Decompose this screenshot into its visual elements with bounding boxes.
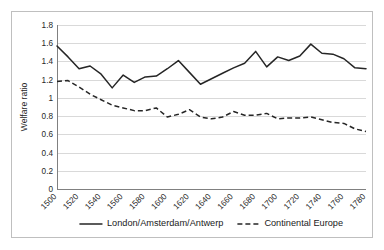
x-tick-label: 1620 <box>172 192 192 212</box>
plot-wrapper: 00.20.40.60.811.21.41.61.8 1500152015401… <box>12 12 372 237</box>
x-tick-label: 1780 <box>348 192 368 212</box>
x-tick-label: 1540 <box>83 192 103 212</box>
chart-legend: London/Amsterdam/AntwerpContinental Euro… <box>80 218 343 228</box>
y-tick-label: 0.2 <box>42 167 54 176</box>
axis-lines <box>57 25 366 190</box>
x-tick-label: 1700 <box>260 192 280 212</box>
x-tick-label: 1740 <box>304 192 324 212</box>
y-tick-label: 1.4 <box>42 57 54 66</box>
gridlines <box>57 26 366 190</box>
x-tick-label: 1760 <box>326 192 346 212</box>
x-tick-label: 1660 <box>216 192 236 212</box>
x-tick-label: 1500 <box>39 192 59 212</box>
y-tick-label: 0.8 <box>42 112 54 121</box>
y-axis-tick-labels: 00.20.40.60.811.21.41.61.8 <box>42 21 54 194</box>
y-tick-label: 1 <box>48 94 53 103</box>
series-line-2 <box>57 81 366 132</box>
y-tick-label: 0.4 <box>42 149 54 158</box>
x-tick-label: 1520 <box>61 192 81 212</box>
x-tick-label: 1680 <box>238 192 258 212</box>
x-tick-label: 1560 <box>105 192 125 212</box>
x-axis-tick-labels: 1500152015401560158016001620164016601680… <box>39 192 368 212</box>
welfare-ratio-line-chart: 00.20.40.60.811.21.41.61.8 1500152015401… <box>12 12 372 237</box>
y-tick-label: 1.8 <box>42 21 54 30</box>
x-tick-label: 1720 <box>282 192 302 212</box>
legend-label-2: Continental Europe <box>264 218 343 228</box>
x-tick-label: 1640 <box>194 192 214 212</box>
x-tick-label: 1600 <box>150 192 170 212</box>
legend-label-1: London/Amsterdam/Antwerp <box>107 218 223 228</box>
chart-figure: 00.20.40.60.811.21.41.61.8 1500152015401… <box>11 11 373 238</box>
data-series-group <box>57 44 366 131</box>
y-axis-title: Welfare ratio <box>19 83 29 132</box>
series-line-1 <box>57 44 366 88</box>
y-tick-label: 0.6 <box>42 130 54 139</box>
y-tick-label: 1.6 <box>42 39 54 48</box>
y-tick-label: 1.2 <box>42 76 54 85</box>
x-tick-label: 1580 <box>127 192 147 212</box>
